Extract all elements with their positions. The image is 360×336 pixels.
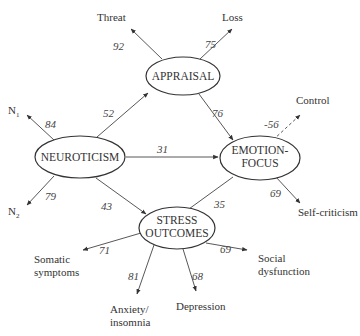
indicator-social-line1: Social <box>258 252 286 264</box>
indicator-threat: Threat <box>97 11 126 23</box>
coef-neuroticism-stress: 43 <box>101 200 113 212</box>
coef-somatic: 71 <box>99 244 110 256</box>
indicator-social-line2: dysfunction <box>258 265 310 277</box>
node-neuroticism: NEUROTICISM <box>35 136 125 178</box>
coef-loss: 75 <box>205 38 217 50</box>
coef-neuroticism-appraisal: 52 <box>103 107 115 119</box>
node-stress-outcomes-line2: OUTCOMES <box>145 227 208 239</box>
coef-control: -56 <box>264 118 279 130</box>
coef-self-criticism: 69 <box>270 187 282 199</box>
node-stress-outcomes-line1: STRESS <box>157 214 198 226</box>
node-stress-outcomes: STRESS OUTCOMES <box>139 207 215 249</box>
indicator-n2: N2 <box>8 205 20 220</box>
node-neuroticism-label: NEUROTICISM <box>41 151 120 163</box>
node-appraisal: APPRAISAL <box>146 57 220 95</box>
coef-threat: 92 <box>113 40 125 52</box>
coef-anxiety: 81 <box>128 270 139 282</box>
coef-social: 69 <box>220 243 232 255</box>
indicator-somatic-line2: symptoms <box>34 266 79 278</box>
indicator-depression: Depression <box>176 300 226 312</box>
coef-appraisal-emotion: 76 <box>212 107 224 119</box>
coef-emotion-stress: 35 <box>213 198 226 210</box>
indicator-somatic-line1: Somatic <box>34 253 70 265</box>
indicator-anxiety-line2: insomnia <box>110 316 150 328</box>
coef-n2: 79 <box>45 190 57 202</box>
indicator-n1: N1 <box>8 104 20 119</box>
node-emotion-focus-line1: EMOTION- <box>232 144 289 156</box>
indicator-self-criticism: Self-criticism <box>298 206 358 218</box>
edge-stress-somatic <box>83 233 141 250</box>
coef-neuroticism-emotion: 31 <box>156 143 168 155</box>
indicator-anxiety-line1: Anxiety/ <box>110 303 149 315</box>
coef-n1: 84 <box>45 118 57 130</box>
edge-stress-anxiety <box>137 245 154 294</box>
edge-appraisal-threat <box>131 29 162 59</box>
indicator-loss: Loss <box>222 11 243 23</box>
node-emotion-focus-line2: FOCUS <box>241 157 278 169</box>
coef-depression: 68 <box>192 270 204 282</box>
indicator-control: Control <box>296 94 330 106</box>
node-emotion-focus: EMOTION- FOCUS <box>220 136 300 180</box>
node-appraisal-label: APPRAISAL <box>152 70 215 82</box>
path-diagram: APPRAISAL NEUROTICISM EMOTION- FOCUS STR… <box>0 0 360 336</box>
